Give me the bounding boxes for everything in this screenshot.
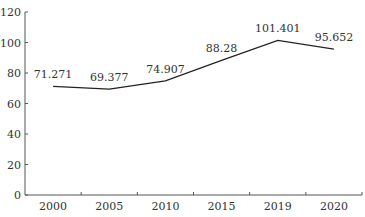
x-tick-label: 2000 (39, 200, 67, 213)
data-label: 95.652 (315, 31, 354, 44)
data-label: 88.28 (206, 42, 238, 55)
y-tick-label: 0 (14, 189, 21, 202)
y-tick-label: 60 (7, 98, 21, 111)
data-label: 71.271 (34, 68, 73, 81)
x-tick-label: 2015 (208, 200, 236, 213)
data-label: 101.401 (255, 22, 301, 35)
data-labels: 71.27169.37774.90788.28101.40195.652 (34, 22, 353, 84)
y-tick-label: 20 (7, 159, 21, 172)
data-label: 69.377 (90, 71, 129, 84)
x-tick-label: 2005 (95, 200, 123, 213)
x-tick-label: 2020 (320, 200, 348, 213)
y-tick-label: 80 (7, 67, 21, 80)
y-axis: 020406080100120 (0, 6, 28, 202)
x-axis: 200020052010201520192020 (25, 192, 362, 213)
y-tick-label: 120 (0, 6, 21, 19)
y-tick-label: 40 (7, 128, 21, 141)
y-tick-label: 100 (0, 37, 21, 50)
data-label: 74.907 (146, 63, 185, 76)
line-chart: 020406080100120 200020052010201520192020… (0, 0, 365, 217)
x-tick-label: 2010 (151, 200, 179, 213)
x-tick-label: 2019 (264, 200, 292, 213)
